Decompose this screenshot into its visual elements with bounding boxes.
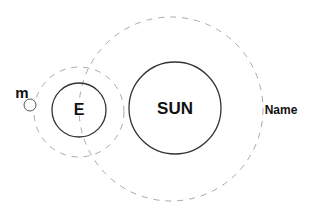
sun-label: SUN [157,100,193,117]
solar-diagram: SUN E m Name [0,0,334,214]
earth-label: E [74,102,85,118]
name-caption: Name [265,104,298,116]
moon-label: m [15,85,28,100]
